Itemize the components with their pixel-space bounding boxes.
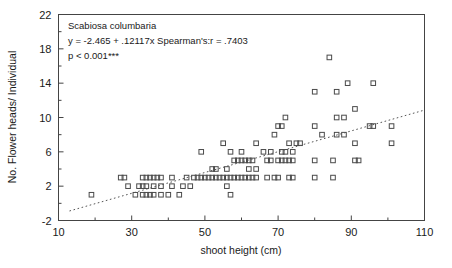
data-point-marker (312, 158, 317, 163)
x-axis-title: shoot height (cm) (200, 244, 281, 256)
data-point-marker (265, 175, 270, 180)
y-axis-title: No. Flower heads/ Individual (6, 51, 18, 184)
data-point-marker (247, 167, 252, 172)
data-point-marker (170, 184, 175, 189)
data-point-marker (159, 192, 164, 197)
data-point-marker (177, 192, 182, 197)
data-point-marker (272, 132, 277, 137)
data-point-marker (353, 141, 358, 146)
x-tick-label: 50 (199, 226, 211, 238)
data-point-marker (89, 192, 94, 197)
data-point-marker (239, 150, 244, 155)
data-point-marker (389, 141, 394, 146)
y-axis-ticks: -22610141822 (39, 9, 63, 227)
data-point-marker (327, 55, 332, 60)
data-point-marker (290, 150, 295, 155)
data-point-marker (254, 167, 259, 172)
annotation-species: Scabiosa columbaria (68, 20, 157, 31)
data-point-marker (345, 81, 350, 86)
data-point-marker (371, 81, 376, 86)
data-point-marker (342, 132, 347, 137)
data-point-marker (334, 89, 339, 94)
data-point-marker (126, 184, 131, 189)
data-point-marker (166, 192, 171, 197)
y-tick-label: 22 (39, 9, 51, 21)
data-point-marker (312, 89, 317, 94)
data-point-marker (133, 192, 138, 197)
data-points (89, 55, 394, 197)
data-point-marker (228, 192, 233, 197)
data-point-marker (331, 158, 336, 163)
data-point-marker (199, 150, 204, 155)
data-point-marker (334, 115, 339, 120)
annotation-equation: y = -2.465 + .12117x Spearman's:r = .740… (68, 35, 248, 46)
annotation-pvalue: p < 0.001*** (68, 50, 119, 61)
x-tick-label: 30 (126, 226, 138, 238)
data-point-marker (312, 175, 317, 180)
data-point-marker (312, 124, 317, 129)
y-tick-label: 10 (39, 112, 51, 124)
chart-svg: -22610141822 1030507090110 shoot height … (0, 0, 452, 268)
data-point-marker (287, 141, 292, 146)
x-tick-label: 70 (272, 226, 284, 238)
data-point-marker (331, 175, 336, 180)
data-point-marker (283, 115, 288, 120)
x-tick-label: 90 (345, 226, 357, 238)
scatter-plot-figure: -22610141822 1030507090110 shoot height … (0, 0, 452, 268)
data-point-marker (188, 184, 193, 189)
y-tick-label: 18 (39, 43, 51, 55)
x-axis-ticks: 1030507090110 (52, 216, 433, 238)
x-tick-label: 10 (52, 226, 64, 238)
data-point-marker (228, 150, 233, 155)
y-tick-label: -2 (42, 215, 52, 227)
y-tick-label: 6 (45, 146, 51, 158)
x-tick-label: 110 (416, 226, 434, 238)
data-point-marker (221, 141, 226, 146)
data-point-marker (389, 124, 394, 129)
data-point-marker (225, 184, 230, 189)
data-point-marker (342, 115, 347, 120)
data-point-marker (353, 107, 358, 112)
y-tick-label: 14 (39, 77, 51, 89)
y-tick-label: 2 (45, 180, 51, 192)
data-point-marker (225, 167, 230, 172)
data-point-marker (254, 141, 259, 146)
data-point-marker (170, 175, 175, 180)
data-point-marker (261, 150, 266, 155)
data-point-marker (181, 184, 186, 189)
data-point-marker (320, 132, 325, 137)
